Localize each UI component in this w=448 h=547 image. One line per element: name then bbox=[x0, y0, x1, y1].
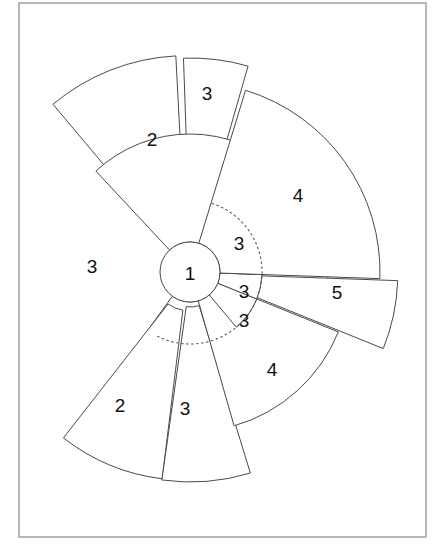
diagram-canvas: 1 32323453334 bbox=[0, 0, 448, 547]
sector-lower-3-label: 3 bbox=[180, 398, 191, 419]
sector-inner-3-mid-label: 3 bbox=[239, 281, 250, 302]
fan-sector-diagram: 1 32323453334 bbox=[0, 0, 448, 547]
sector-lower-left-2-label: 2 bbox=[115, 395, 126, 416]
sector-layer bbox=[53, 56, 398, 482]
sector-right-5-label: 5 bbox=[332, 282, 343, 303]
hub-label: 1 bbox=[185, 263, 196, 284]
sector-upper-right-4-label: 4 bbox=[293, 185, 304, 206]
sector-inner-3-upper-label: 3 bbox=[234, 233, 245, 254]
sector-left-3-label: 3 bbox=[87, 256, 98, 277]
sector-inner-3-lower-label: 3 bbox=[239, 310, 250, 331]
sector-lower-left-2[interactable] bbox=[63, 304, 182, 479]
sector-upper-left-2-label: 2 bbox=[147, 129, 158, 150]
sector-lower-right-4-label: 4 bbox=[267, 359, 278, 380]
sector-top-3-label: 3 bbox=[202, 83, 213, 104]
